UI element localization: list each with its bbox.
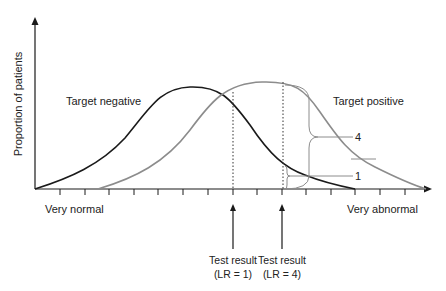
up-arrow-icon: [279, 204, 285, 211]
small-brace: [285, 166, 290, 189]
test-result-lr1-line2: (LR = 1): [214, 268, 252, 280]
likelihood-ratio-diagram: Proportion of patients Very normal Very …: [0, 0, 446, 291]
large-brace-label: 4: [355, 131, 361, 143]
test-result-lr4-line1: Test result: [258, 254, 306, 266]
x-axis-left-label: Very normal: [45, 203, 104, 215]
up-arrow-icon: [230, 204, 236, 211]
x-axis-ticks: [60, 189, 405, 195]
small-brace-label: 1: [355, 170, 361, 182]
y-axis: [32, 17, 39, 189]
target-positive-label: Target positive: [333, 95, 404, 107]
test-result-lr4-line2: (LR = 4): [263, 268, 301, 280]
test-result-lr1-line1: Test result: [209, 254, 257, 266]
y-axis-arrow-icon: [32, 17, 39, 25]
target-negative-label: Target negative: [66, 95, 141, 107]
y-axis-label: Proportion of patients: [12, 51, 24, 156]
x-axis-right-label: Very abnormal: [347, 203, 418, 215]
test-result-lr1-arrow: [230, 204, 236, 249]
test-result-lr4-arrow: [279, 204, 285, 249]
